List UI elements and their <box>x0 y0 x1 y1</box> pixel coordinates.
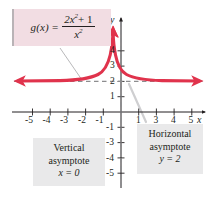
rational-function-figure: g(x) = 2x2+ 1 x2 y x -5 -4 -3 -2 -1 1 3 … <box>0 0 215 197</box>
y-tick-label-1: 1 <box>110 91 115 101</box>
vertical-callout-line1: Vertical <box>33 142 105 155</box>
numerator-plus-term: + 1 <box>78 12 92 24</box>
x-tick-label-neg5: -5 <box>25 115 33 125</box>
y-tick-label-neg3: -3 <box>106 137 114 147</box>
x-tick-label-neg2: -2 <box>78 115 86 125</box>
formula-leader-line <box>60 48 82 80</box>
y-tick-label-4: 4 <box>110 45 115 55</box>
x-tick-label-neg4: -4 <box>43 115 51 125</box>
equals-sign: = <box>52 21 58 33</box>
y-tick-label-2: 2 <box>110 76 115 86</box>
vertical-callout-line2: asymptote <box>33 155 105 168</box>
horizontal-callout-line2: asymptote <box>137 141 203 154</box>
formula-callout: g(x) = 2x2+ 1 x2 <box>12 9 111 46</box>
horizontal-callout-equation: y = 2 <box>137 153 203 166</box>
y-tick-label-neg1: -1 <box>106 122 114 132</box>
y-tick-label-neg5: -5 <box>106 168 114 178</box>
fraction: 2x2+ 1 x2 <box>62 13 94 40</box>
curve-right-branch <box>113 30 199 81</box>
horizontal-asymptote-callout: Horizontal asymptote y = 2 <box>137 124 203 174</box>
denominator-exponent: 2 <box>79 27 83 35</box>
fraction-numerator: 2x2+ 1 <box>62 13 94 26</box>
horizontal-callout-line1: Horizontal <box>137 128 203 141</box>
y-tick-label-3: 3 <box>110 60 115 70</box>
vertical-callout-equation: x = 0 <box>33 167 105 180</box>
x-tick-label-neg1: -1 <box>96 115 104 125</box>
function-name: g(x) <box>30 21 49 33</box>
vertical-asymptote-callout: Vertical asymptote x = 0 <box>33 138 105 186</box>
fraction-denominator: x2 <box>72 27 84 40</box>
x-tick-label-neg3: -3 <box>60 115 68 125</box>
y-tick-label-neg4: -4 <box>106 153 114 163</box>
formula-expression: g(x) = 2x2+ 1 x2 <box>30 13 94 40</box>
